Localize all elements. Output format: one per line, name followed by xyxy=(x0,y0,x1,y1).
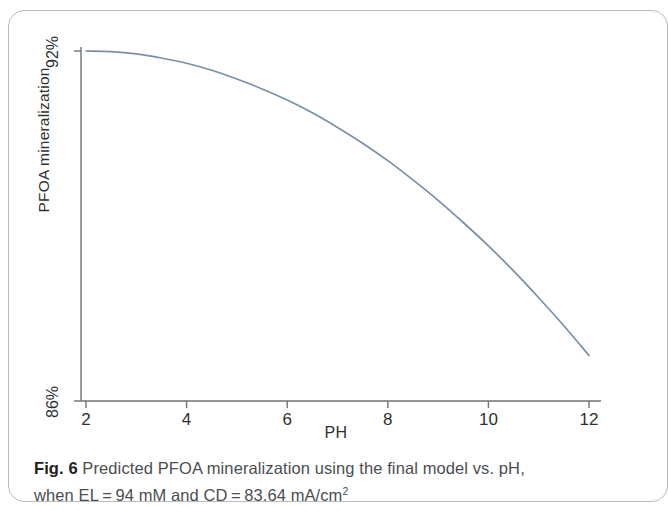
figure-caption-line2: when EL = 94 mM and CD = 83.64 mA/cm xyxy=(34,486,342,504)
y-axis-ticks xyxy=(74,51,81,401)
data-curve xyxy=(86,51,589,356)
figure-caption-line1: Predicted PFOA mineralization using the … xyxy=(78,459,525,477)
x-tick-label: 4 xyxy=(167,410,207,430)
x-tick-label: 8 xyxy=(368,410,408,430)
chart-plot-area: 92% 86% PFOA mineralization 24681012 PH xyxy=(9,11,611,451)
figure-caption: Fig. 6 Predicted PFOA mineralization usi… xyxy=(34,455,604,509)
x-axis-title: PH xyxy=(301,424,371,442)
x-tick-label: 10 xyxy=(468,410,508,430)
y-tick-label-bottom: 86% xyxy=(44,386,62,418)
x-tick-label: 12 xyxy=(569,410,609,430)
x-tick-label: 2 xyxy=(66,410,106,430)
figure-caption-superscript: 2 xyxy=(342,485,348,497)
y-axis-title: PFOA mineralization xyxy=(35,50,53,230)
figure-card: 92% 86% PFOA mineralization 24681012 PH … xyxy=(8,10,668,502)
chart-svg xyxy=(9,11,611,451)
figure-caption-label: Fig. 6 xyxy=(34,459,78,477)
x-axis-ticks xyxy=(86,401,589,408)
